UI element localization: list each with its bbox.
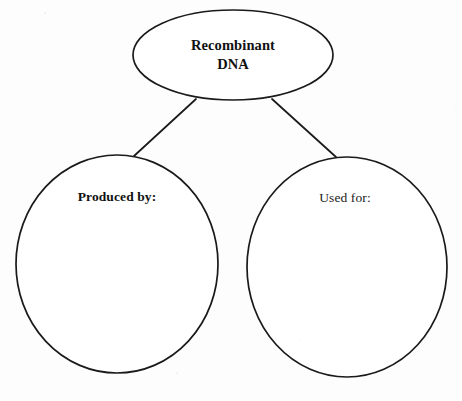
- connector-root-to-produced-by: [134, 99, 196, 156]
- node-recombinant-dna-shape[interactable]: [133, 10, 333, 100]
- connector-root-to-used-for: [272, 99, 336, 157]
- concept-map-diagram: Recombinant DNA Produced by: Used for:: [0, 0, 462, 401]
- diagram-canvas: [0, 0, 462, 401]
- node-produced-by-shape[interactable]: [16, 155, 218, 373]
- node-used-for-shape[interactable]: [247, 157, 447, 377]
